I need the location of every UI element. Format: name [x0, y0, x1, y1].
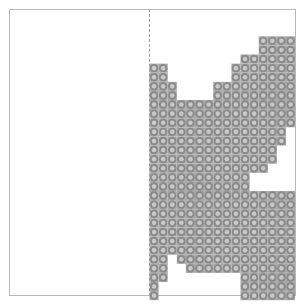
dot-ring-center — [170, 175, 175, 180]
dot-ring-center — [179, 221, 184, 226]
dot-ring-center — [243, 166, 248, 171]
dot-ring-center — [197, 102, 202, 107]
dot-ring-center — [206, 193, 211, 198]
dot-ring-center — [225, 221, 230, 226]
dot-ring-center — [197, 230, 202, 235]
dot-ring-center — [215, 239, 220, 244]
dot-ring-center — [288, 120, 293, 125]
dot-ring-center — [243, 221, 248, 226]
dot-ring-center — [234, 166, 239, 171]
dot-ring-center — [288, 193, 293, 198]
dot-ring-center — [261, 257, 266, 262]
dot-ring-center — [188, 266, 193, 271]
dot-ring-center — [261, 157, 266, 162]
dot-ring-center — [252, 148, 257, 153]
dot-ring-center — [288, 111, 293, 116]
dot-ring-center — [261, 57, 266, 62]
dot-ring-center — [270, 275, 275, 280]
dot-ring-center — [234, 193, 239, 198]
dot-ring-center — [243, 66, 248, 71]
dot-ring-center — [188, 184, 193, 189]
dot-ring-center — [270, 221, 275, 226]
dot-ring-center — [225, 93, 230, 98]
dot-ring-center — [279, 39, 284, 44]
dot-ring-center — [188, 139, 193, 144]
dot-ring-center — [234, 130, 239, 135]
dot-ring-center — [152, 284, 157, 289]
dot-ring-center — [206, 130, 211, 135]
dot-ring-center — [234, 175, 239, 180]
dot-ring-center — [215, 120, 220, 125]
dot-ring-center — [188, 166, 193, 171]
dot-ring-center — [270, 239, 275, 244]
dot-ring-center — [252, 248, 257, 253]
dot-ring-center — [279, 48, 284, 53]
dot-ring-center — [261, 275, 266, 280]
dot-ring-center — [270, 39, 275, 44]
dot-ring-center — [279, 257, 284, 262]
dot-ring-center — [152, 120, 157, 125]
dot-ring-center — [161, 84, 166, 89]
dot-ring-center — [261, 93, 266, 98]
dot-ring-center — [243, 139, 248, 144]
dot-ring-center — [252, 221, 257, 226]
dot-ring-center — [206, 230, 211, 235]
dot-ring-center — [161, 93, 166, 98]
dot-ring-center — [179, 257, 184, 262]
dot-ring-center — [152, 211, 157, 216]
dot-ring-center — [170, 202, 175, 207]
dot-ring-center — [215, 193, 220, 198]
dot-ring-center — [152, 221, 157, 226]
dot-ring-center — [234, 120, 239, 125]
dot-ring-center — [234, 111, 239, 116]
dot-ring-center — [188, 230, 193, 235]
dot-ring-center — [161, 193, 166, 198]
dot-ring-center — [243, 175, 248, 180]
dot-ring-center — [288, 266, 293, 271]
dot-ring-center — [179, 230, 184, 235]
dot-ring-center — [261, 293, 266, 298]
dot-ring-center — [270, 202, 275, 207]
dot-ring-center — [161, 275, 166, 280]
dot-ring-center — [188, 239, 193, 244]
dot-ring-center — [252, 111, 257, 116]
dot-ring-center — [252, 130, 257, 135]
dot-ring-center — [188, 102, 193, 107]
dot-ring-center — [215, 166, 220, 171]
dot-ring-center — [206, 248, 211, 253]
dot-ring-center — [288, 275, 293, 280]
dot-ring-center — [270, 66, 275, 71]
dot-ring-center — [288, 102, 293, 107]
dot-ring-center — [261, 120, 266, 125]
dot-ring-center — [252, 202, 257, 207]
dot-ring-center — [170, 211, 175, 216]
dot-ring-center — [206, 111, 211, 116]
dot-ring-center — [179, 175, 184, 180]
dot-ring-center — [161, 257, 166, 262]
dot-ring-center — [197, 148, 202, 153]
dot-ring-center — [279, 266, 284, 271]
dot-ring-center — [206, 202, 211, 207]
dot-ring-center — [288, 84, 293, 89]
dot-ring-center — [206, 239, 211, 244]
dot-ring-center — [243, 75, 248, 80]
dot-ring-center — [243, 184, 248, 189]
dot-ring-center — [215, 102, 220, 107]
dot-ring-center — [279, 193, 284, 198]
dot-ring-center — [152, 166, 157, 171]
dot-ring-center — [179, 111, 184, 116]
dot-ring-center — [261, 48, 266, 53]
dot-ring-center — [234, 221, 239, 226]
dot-ring-center — [261, 111, 266, 116]
dot-ring-center — [225, 239, 230, 244]
dot-ring-center — [215, 130, 220, 135]
dot-ring-center — [243, 266, 248, 271]
dot-ring-center — [215, 111, 220, 116]
dot-ring-center — [152, 111, 157, 116]
dot-ring-center — [288, 39, 293, 44]
dot-ring-center — [261, 66, 266, 71]
dot-ring-center — [279, 93, 284, 98]
dot-ring-center — [161, 148, 166, 153]
dot-ring-center — [288, 211, 293, 216]
dot-ring-center — [188, 202, 193, 207]
